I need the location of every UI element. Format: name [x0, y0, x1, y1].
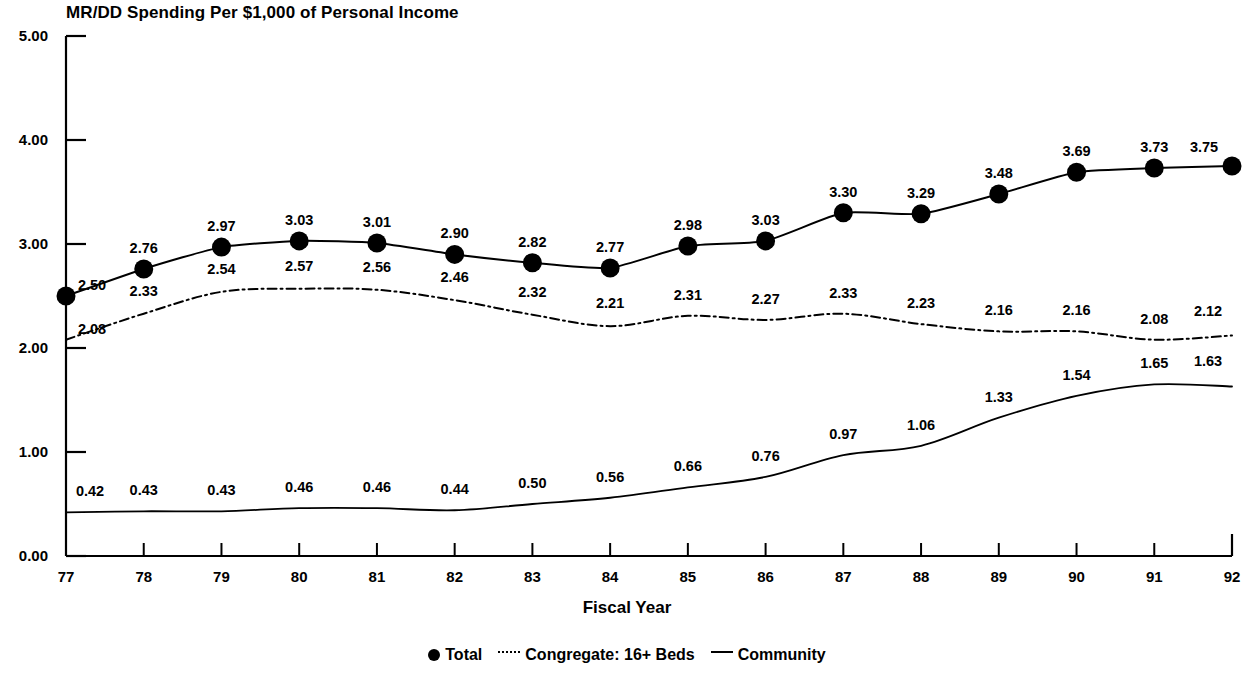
chart-axes: [66, 36, 1232, 556]
series-line-community: [66, 384, 1232, 512]
data-point-label: 0.56: [596, 469, 624, 485]
series-point-marker: [445, 245, 464, 264]
data-point-label: 2.46: [441, 269, 469, 285]
chart-figure: MR/DD Spending Per $1,000 of Personal In…: [0, 0, 1254, 678]
data-point-label: 2.90: [441, 225, 469, 241]
x-axis-tick-label: 87: [835, 568, 852, 585]
x-axis-tick-label: 82: [446, 568, 463, 585]
y-axis-tick-label: 2.00: [19, 339, 48, 356]
data-point-label: 3.29: [907, 185, 935, 201]
data-point-label: 1.33: [985, 389, 1013, 405]
data-point-label: 0.97: [829, 426, 857, 442]
data-point-label: 1.63: [1194, 353, 1222, 369]
series-point-marker: [1067, 163, 1086, 182]
series-point-marker: [1223, 157, 1242, 176]
data-point-label: 2.97: [207, 218, 235, 234]
dash-dot-line-marker-icon: [498, 651, 520, 653]
data-point-label: 2.31: [674, 287, 702, 303]
chart-data-labels: 2.502.762.973.033.012.902.822.772.983.03…: [76, 139, 1222, 499]
x-axis-tick-label: 92: [1224, 568, 1241, 585]
series-point-marker: [601, 258, 620, 277]
solid-line-marker-icon: [711, 651, 733, 653]
chart-series-lines: [57, 157, 1242, 513]
series-line-congregate-16-beds: [66, 288, 1232, 339]
x-axis-tick-label: 77: [58, 568, 75, 585]
data-point-label: 2.12: [1194, 303, 1222, 319]
legend-item-total: Total: [428, 646, 482, 664]
data-point-label: 1.65: [1140, 355, 1168, 371]
x-axis-ticks: 77787980818283848586878889909192: [58, 543, 1241, 585]
x-axis-tick-label: 80: [291, 568, 308, 585]
chart-plot-area: 0.001.002.003.004.005.00 777879808182838…: [0, 0, 1254, 678]
data-point-label: 0.76: [751, 448, 779, 464]
data-point-label: 2.98: [674, 217, 702, 233]
data-point-label: 2.33: [829, 285, 857, 301]
data-point-label: 2.08: [1140, 311, 1168, 327]
series-point-marker: [523, 253, 542, 272]
y-axis-tick-label: 5.00: [19, 27, 48, 44]
data-point-label: 2.50: [78, 277, 106, 293]
data-point-label: 3.73: [1140, 139, 1168, 155]
x-axis-tick-label: 89: [990, 568, 1007, 585]
data-point-label: 2.33: [130, 283, 158, 299]
data-point-label: 2.57: [285, 258, 313, 274]
data-point-label: 3.01: [363, 214, 391, 230]
data-point-label: 1.06: [907, 417, 935, 433]
data-point-label: 0.44: [441, 481, 469, 497]
legend-item-congregate: Congregate: 16+ Beds: [498, 646, 694, 664]
data-point-label: 0.46: [363, 479, 391, 495]
data-point-label: 1.54: [1062, 367, 1090, 383]
data-point-label: 2.82: [518, 234, 546, 250]
series-point-marker: [367, 233, 386, 252]
data-point-label: 2.16: [1062, 302, 1090, 318]
data-point-label: 3.03: [285, 212, 313, 228]
y-axis-tick-label: 3.00: [19, 235, 48, 252]
data-point-label: 0.50: [518, 475, 546, 491]
data-point-label: 3.03: [751, 212, 779, 228]
x-axis-tick-label: 81: [369, 568, 386, 585]
legend-label-congregate: Congregate: 16+ Beds: [525, 646, 694, 664]
x-axis-tick-label: 84: [602, 568, 619, 585]
data-point-label: 0.42: [76, 483, 104, 499]
data-point-label: 3.75: [1190, 139, 1218, 155]
series-point-marker: [1145, 159, 1164, 178]
data-point-label: 2.77: [596, 239, 624, 255]
data-point-label: 0.43: [207, 482, 235, 498]
data-point-label: 0.43: [130, 482, 158, 498]
data-point-label: 2.54: [207, 261, 235, 277]
y-axis-tick-label: 4.00: [19, 131, 48, 148]
series-point-marker: [989, 185, 1008, 204]
chart-legend: Total Congregate: 16+ Beds Community: [0, 646, 1254, 664]
filled-circle-marker-icon: [428, 649, 440, 661]
y-axis-tick-label: 1.00: [19, 443, 48, 460]
x-axis-title: Fiscal Year: [0, 598, 1254, 618]
series-point-marker: [134, 259, 153, 278]
legend-label-total: Total: [445, 646, 482, 664]
data-point-label: 2.56: [363, 259, 391, 275]
series-point-marker: [678, 237, 697, 256]
x-axis-tick-label: 78: [135, 568, 152, 585]
x-axis-tick-label: 91: [1146, 568, 1163, 585]
data-point-label: 3.69: [1062, 143, 1090, 159]
series-line-total: [66, 166, 1232, 296]
y-axis-tick-label: 0.00: [19, 547, 48, 564]
x-axis-tick-label: 79: [213, 568, 230, 585]
legend-label-community: Community: [738, 646, 826, 664]
data-point-label: 2.76: [130, 240, 158, 256]
series-point-marker: [290, 231, 309, 250]
data-point-label: 2.32: [518, 284, 546, 300]
data-point-label: 2.08: [78, 321, 106, 337]
series-point-marker: [834, 203, 853, 222]
x-axis-tick-label: 86: [757, 568, 774, 585]
series-point-marker: [756, 231, 775, 250]
data-point-label: 2.27: [751, 291, 779, 307]
data-point-label: 3.48: [985, 165, 1013, 181]
x-axis-tick-label: 90: [1068, 568, 1085, 585]
series-point-marker: [212, 238, 231, 257]
data-point-label: 0.46: [285, 479, 313, 495]
series-point-marker: [912, 204, 931, 223]
x-axis-tick-label: 85: [680, 568, 697, 585]
x-axis-tick-label: 88: [913, 568, 930, 585]
data-point-label: 2.16: [985, 302, 1013, 318]
legend-item-community: Community: [711, 646, 826, 664]
